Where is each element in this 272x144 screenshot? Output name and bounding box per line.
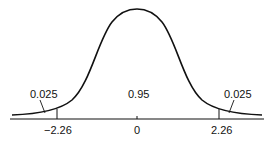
tick-label-right: 2.26 <box>211 124 232 136</box>
right-tail-area-label: 0.025 <box>224 88 252 100</box>
tick-label-center: 0 <box>134 124 140 136</box>
left-tail-area-label: 0.025 <box>30 88 58 100</box>
t-distribution-diagram: 0.025 0.95 0.025 −2.26 0 2.26 <box>0 0 272 144</box>
left-tail-pointer <box>40 100 45 113</box>
tick-label-left: −2.26 <box>44 124 72 136</box>
center-area-label: 0.95 <box>128 88 149 100</box>
right-tail-pointer <box>229 100 234 113</box>
diagram-canvas: 0.025 0.95 0.025 −2.26 0 2.26 <box>0 0 272 144</box>
